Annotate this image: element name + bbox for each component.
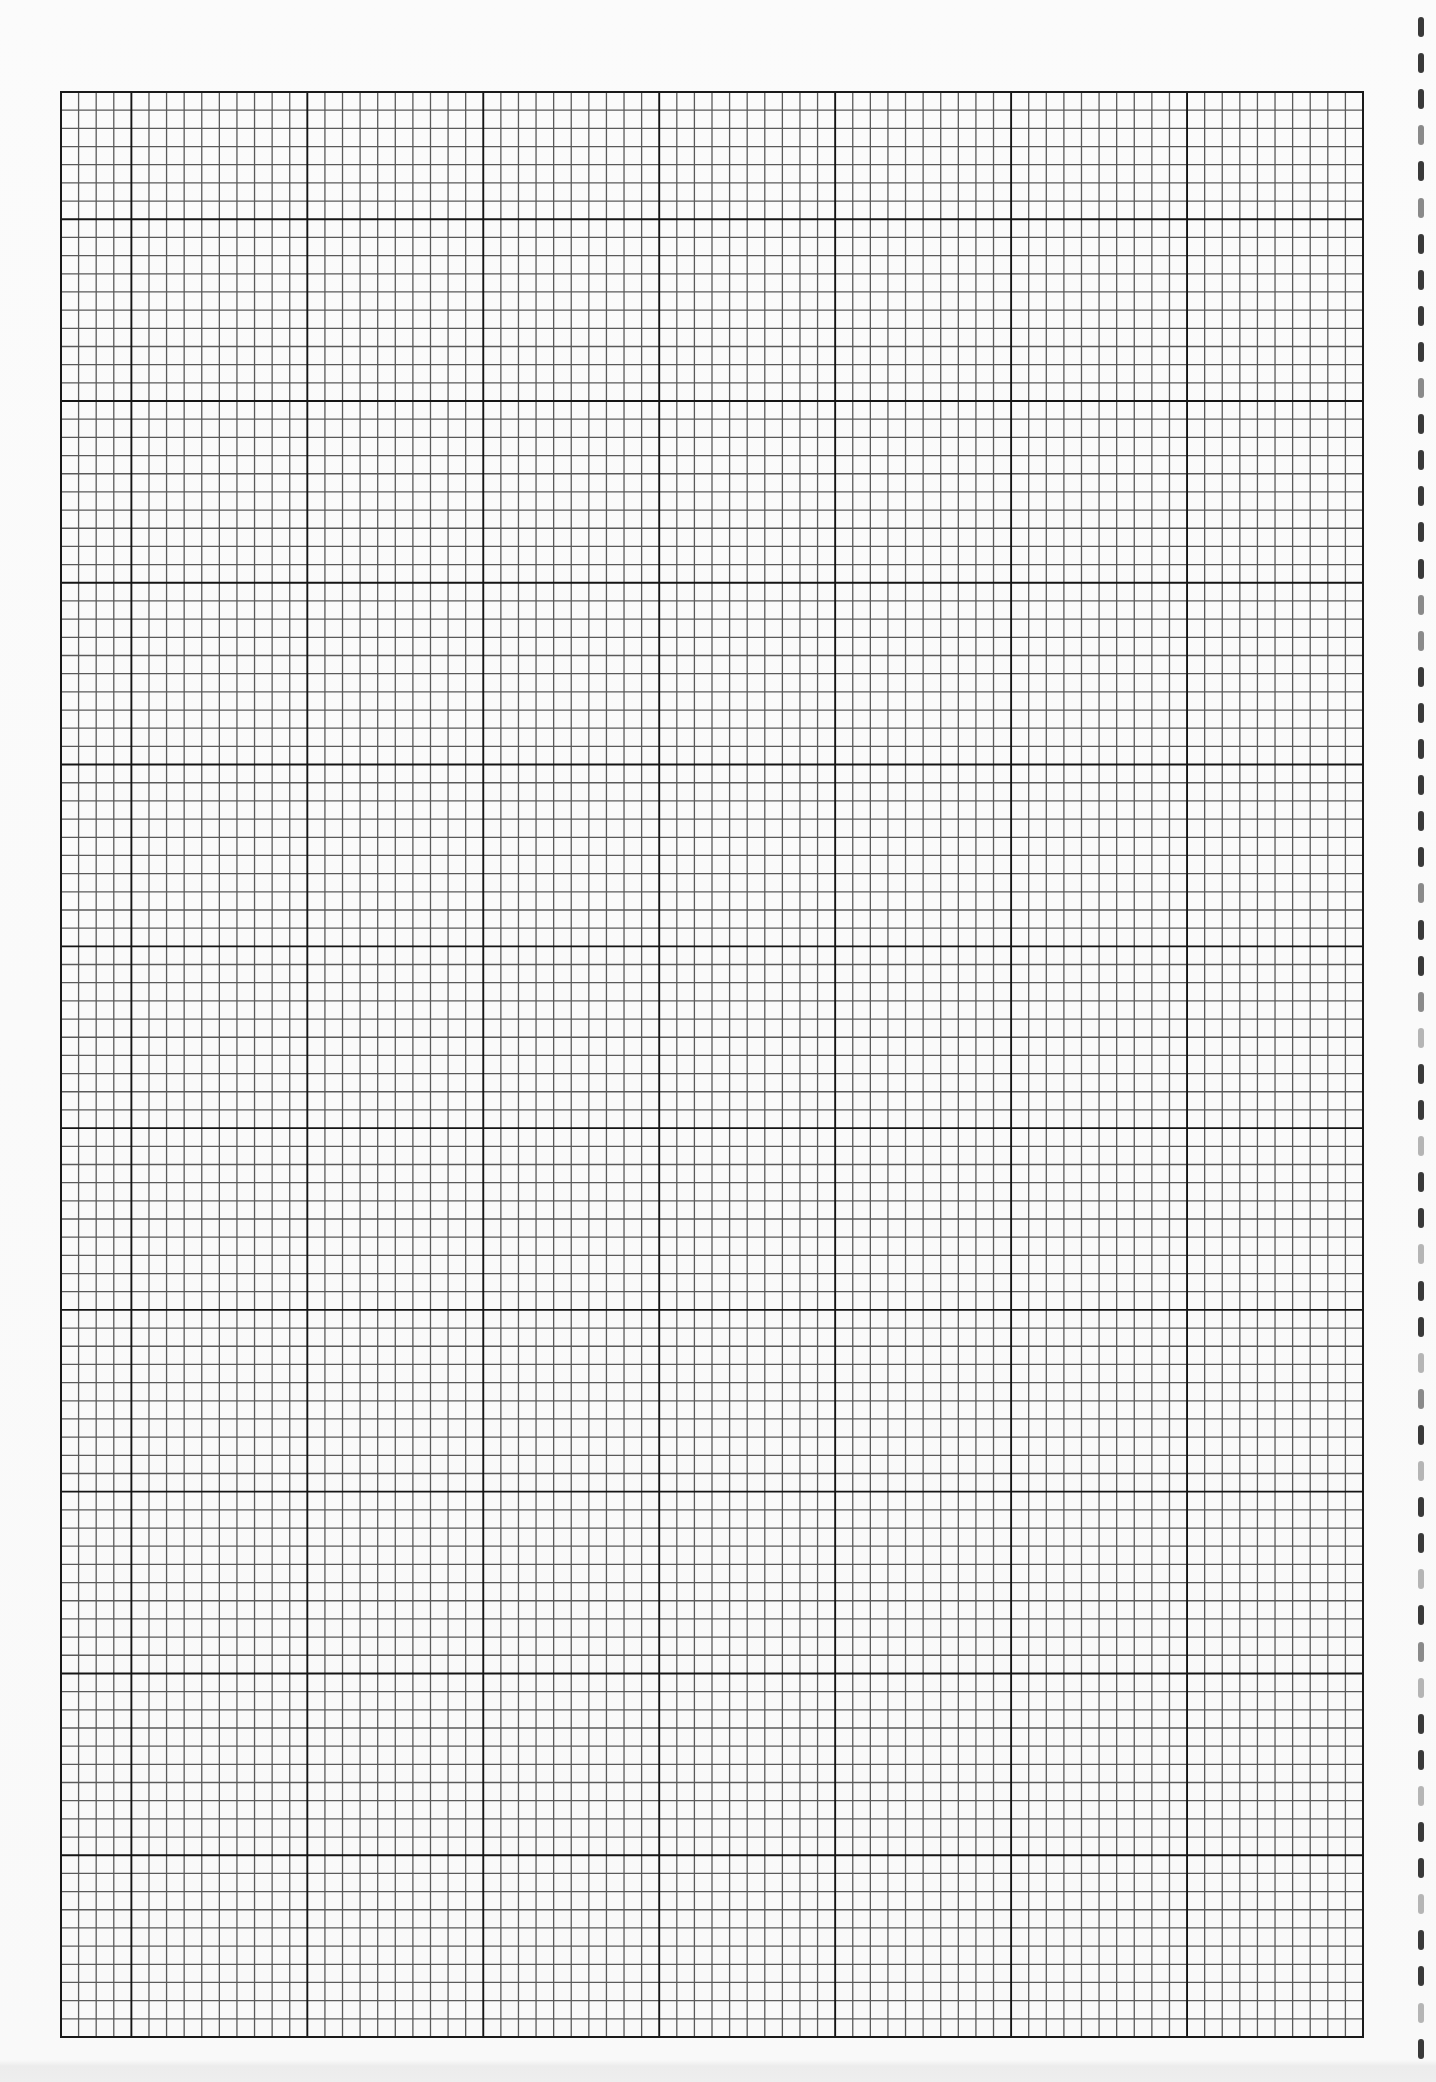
binding-hole-icon	[1418, 1786, 1424, 1806]
binding-hole-icon	[1418, 1028, 1424, 1048]
graph-paper-page	[0, 0, 1436, 2082]
binding-hole-icon	[1418, 450, 1424, 470]
binding-hole-icon	[1418, 1172, 1424, 1192]
binding-hole-icon	[1418, 1136, 1424, 1156]
binding-hole-icon	[1418, 1244, 1424, 1264]
graph-paper-grid	[0, 0, 1436, 2082]
binding-hole-icon	[1418, 1461, 1424, 1481]
binding-hole-icon	[1418, 739, 1424, 759]
binding-hole-icon	[1418, 1497, 1424, 1517]
binding-hole-icon	[1418, 667, 1424, 687]
binding-hole-icon	[1418, 89, 1424, 109]
binding-hole-icon	[1418, 1750, 1424, 1770]
binding-hole-icon	[1418, 1822, 1424, 1842]
binding-hole-icon	[1418, 53, 1424, 73]
binding-hole-icon	[1418, 270, 1424, 290]
binding-hole-icon	[1418, 306, 1424, 326]
binding-hole-icon	[1418, 811, 1424, 831]
binding-hole-icon	[1418, 125, 1424, 145]
binding-hole-icon	[1418, 342, 1424, 362]
binding-hole-icon	[1418, 17, 1424, 37]
binding-hole-icon	[1418, 883, 1424, 903]
binding-hole-icon	[1418, 1317, 1424, 1337]
binding-hole-icon	[1418, 775, 1424, 795]
binding-hole-icon	[1418, 1858, 1424, 1878]
binding-hole-icon	[1418, 1064, 1424, 1084]
binding-strip	[1416, 0, 1436, 2082]
binding-hole-icon	[1418, 234, 1424, 254]
binding-hole-icon	[1418, 595, 1424, 615]
binding-hole-icon	[1418, 161, 1424, 181]
binding-hole-icon	[1418, 414, 1424, 434]
binding-hole-icon	[1418, 1425, 1424, 1445]
binding-hole-icon	[1418, 1930, 1424, 1950]
binding-hole-icon	[1418, 1894, 1424, 1914]
binding-hole-icon	[1418, 1714, 1424, 1734]
binding-hole-icon	[1418, 486, 1424, 506]
binding-hole-icon	[1418, 703, 1424, 723]
binding-hole-icon	[1418, 1642, 1424, 1662]
binding-hole-icon	[1418, 1569, 1424, 1589]
binding-hole-icon	[1418, 920, 1424, 940]
binding-hole-icon	[1418, 1281, 1424, 1301]
binding-hole-icon	[1418, 1208, 1424, 1228]
binding-hole-icon	[1418, 378, 1424, 398]
binding-hole-icon	[1418, 2039, 1424, 2059]
binding-hole-icon	[1418, 1678, 1424, 1698]
binding-hole-icon	[1418, 992, 1424, 1012]
binding-hole-icon	[1418, 1533, 1424, 1553]
binding-hole-icon	[1418, 2003, 1424, 2023]
binding-hole-icon	[1418, 198, 1424, 218]
binding-hole-icon	[1418, 1966, 1424, 1986]
binding-hole-icon	[1418, 522, 1424, 542]
binding-hole-icon	[1418, 1605, 1424, 1625]
binding-hole-icon	[1418, 1353, 1424, 1373]
binding-hole-icon	[1418, 1389, 1424, 1409]
binding-hole-icon	[1418, 559, 1424, 579]
binding-hole-icon	[1418, 631, 1424, 651]
binding-hole-icon	[1418, 847, 1424, 867]
binding-hole-icon	[1418, 956, 1424, 976]
binding-hole-icon	[1418, 1100, 1424, 1120]
